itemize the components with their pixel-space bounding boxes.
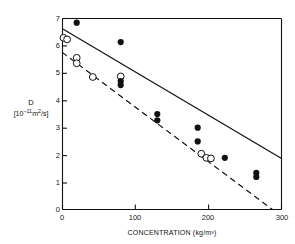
x-axis-title: CONCENTRATION (kg/m³) bbox=[62, 229, 282, 236]
data-point-filled bbox=[154, 117, 160, 123]
y-tick-label-6: 6 bbox=[46, 42, 60, 50]
data-point-open bbox=[208, 155, 215, 162]
data-point-filled bbox=[74, 20, 80, 26]
data-point-open bbox=[89, 74, 96, 81]
data-point-filled bbox=[118, 82, 124, 88]
data-point-filled bbox=[253, 174, 259, 180]
x-tick-label-0: 0 bbox=[50, 214, 74, 222]
y-tick-label-1: 1 bbox=[46, 179, 60, 187]
y-tick-label-0: 0 bbox=[46, 206, 60, 214]
x-tick-label-300: 300 bbox=[270, 214, 294, 222]
figure-panel: 7 6 5 4 3 2 1 0 0 100 200 300 D [10−11m2… bbox=[0, 0, 295, 244]
y-tick-label-3: 3 bbox=[46, 124, 60, 132]
y-tick-label-5: 5 bbox=[46, 69, 60, 77]
data-point-filled bbox=[222, 155, 228, 161]
axis-frame bbox=[63, 19, 282, 210]
filled-circle-series bbox=[74, 20, 260, 180]
data-point-open bbox=[73, 60, 80, 67]
data-point-filled bbox=[195, 125, 201, 131]
x-tick-label-100: 100 bbox=[123, 214, 147, 222]
y-tick-label-2: 2 bbox=[46, 152, 60, 160]
y-tick-label-7: 7 bbox=[46, 15, 60, 23]
data-point-filled bbox=[154, 111, 160, 117]
solid-trend-line bbox=[62, 28, 282, 158]
plot-area bbox=[62, 18, 282, 210]
data-point-filled bbox=[118, 39, 124, 45]
x-tick-label-200: 200 bbox=[196, 214, 220, 222]
chart-canvas bbox=[62, 18, 282, 210]
x-tick-marks bbox=[63, 205, 282, 210]
data-point-open bbox=[64, 36, 71, 43]
open-circle-series bbox=[60, 34, 214, 161]
data-point-filled bbox=[195, 138, 201, 144]
y-axis-title-unit: [10−11m2/s] bbox=[2, 109, 60, 119]
y-axis-title: D [10−11m2/s] bbox=[2, 98, 60, 119]
